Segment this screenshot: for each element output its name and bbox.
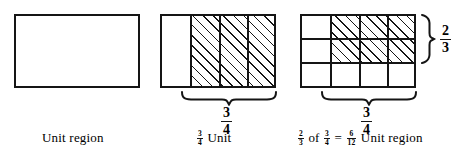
product-equation-caption: 2 3 of 3 4 = 6 12 Unit region (297, 130, 423, 146)
equation-factor-b: 3 4 (324, 130, 330, 146)
figure-sheet: Unit region 3 4 3 4 U (0, 0, 468, 158)
equation-suffix: Unit region (361, 130, 423, 145)
product-underbrace (320, 90, 418, 106)
caption-fraction: 3 4 (197, 130, 203, 146)
three-fourths-underbrace (180, 90, 278, 106)
right-brace-numerator: 2 (440, 24, 451, 40)
brace-label-numerator: 3 (221, 106, 232, 122)
three-fourths-caption: 3 4 Unit (196, 130, 231, 146)
product-divider-v3 (387, 14, 389, 88)
three-fourths-divider-1 (190, 14, 192, 88)
unit-region-caption: Unit region (42, 130, 104, 146)
equation-of-word: of (308, 130, 319, 145)
equation-equals-sign: = (335, 130, 343, 145)
factor-b-denominator: 4 (324, 139, 330, 147)
product-right-brace (420, 13, 436, 65)
product-divider-h2 (300, 62, 416, 64)
product-denominator: 12 (347, 139, 357, 147)
caption-suffix: Unit (207, 130, 231, 145)
unit-region-rectangle (14, 14, 140, 88)
caption-fraction-denominator: 4 (197, 139, 203, 147)
product-right-brace-label: 2 3 (440, 24, 451, 55)
product-divider-v2 (359, 14, 361, 88)
product-divider-h1 (300, 38, 416, 40)
factor-a-denominator: 3 (298, 139, 304, 147)
equation-product: 6 12 (347, 130, 357, 146)
three-fourths-divider-2 (219, 14, 221, 88)
product-divider-v1 (330, 14, 332, 88)
right-brace-denominator: 3 (440, 40, 451, 55)
bottom-brace-numerator: 3 (361, 106, 372, 122)
three-fourths-divider-3 (247, 14, 249, 88)
three-fourths-shaded-region (191, 16, 274, 86)
equation-factor-a: 2 3 (298, 130, 304, 146)
